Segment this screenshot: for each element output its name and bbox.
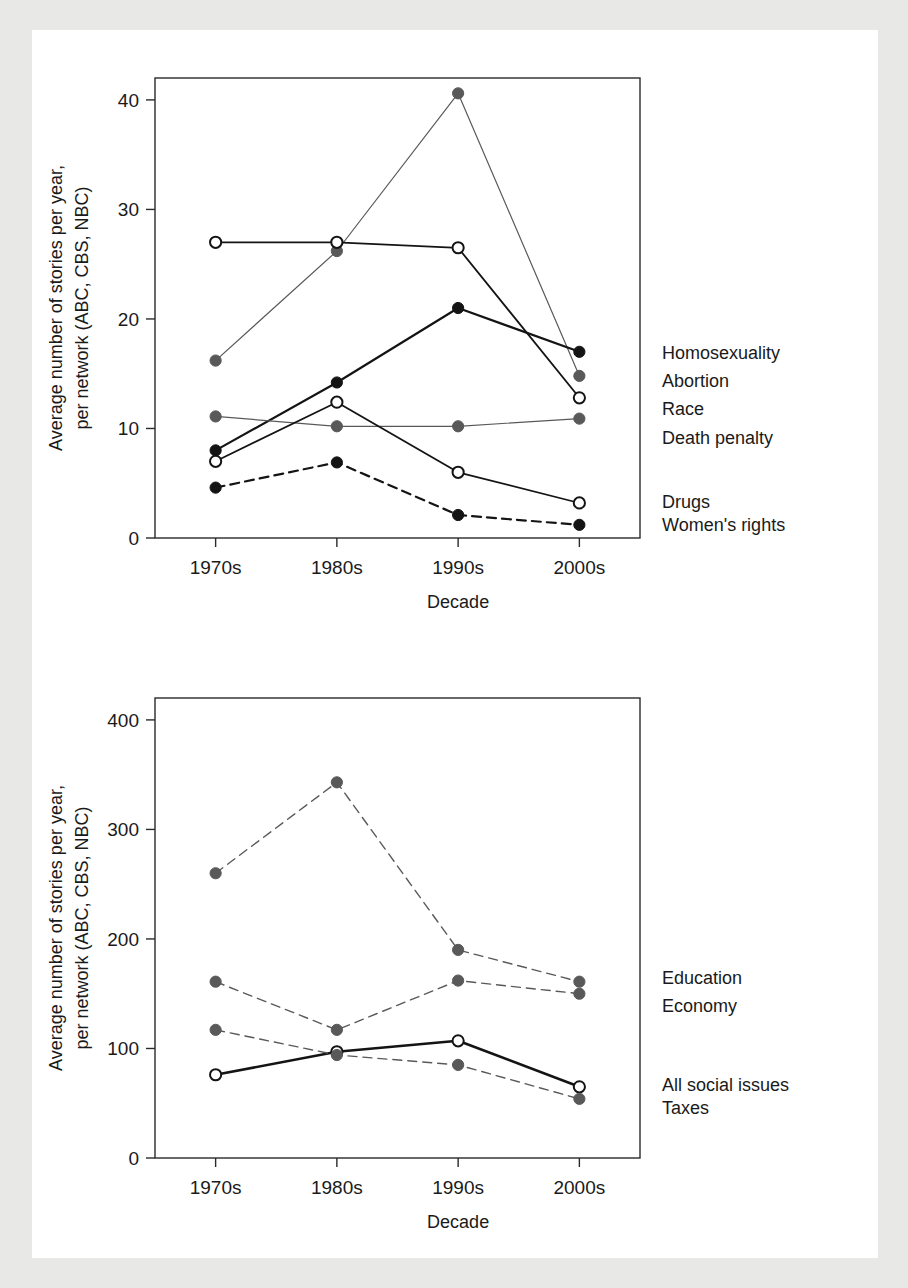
scan-edge-bottom: [0, 1258, 908, 1288]
data-point-marker: [331, 1049, 342, 1060]
data-point-marker: [210, 482, 221, 493]
x-tick-label: 1970s: [190, 557, 242, 578]
plot-frame: [155, 698, 640, 1158]
y-tick-label: 0: [128, 528, 139, 549]
y-tick-label: 30: [118, 199, 139, 220]
data-point-marker: [453, 302, 464, 313]
data-point-marker: [331, 1024, 342, 1035]
data-point-marker: [453, 88, 464, 99]
y-tick-label: 400: [107, 710, 139, 731]
series-label-homosexuality: Homosexuality: [662, 343, 780, 363]
data-point-marker: [210, 456, 221, 467]
series-label-abortion: Abortion: [662, 371, 729, 391]
data-point-marker: [574, 346, 585, 357]
scan-edge-top: [0, 0, 908, 30]
data-point-marker: [210, 445, 221, 456]
series-line-education: [216, 782, 580, 981]
scanned-page: 0102030401970s1980s1990s2000sDecadeAvera…: [0, 0, 908, 1288]
series-label-race: Race: [662, 399, 704, 419]
data-point-marker: [574, 519, 585, 530]
social-issues-chart-figure: 0102030401970s1980s1990s2000sDecadeAvera…: [0, 40, 908, 640]
data-point-marker: [331, 237, 342, 248]
series-label-women-s-rights: Women's rights: [662, 515, 785, 535]
data-point-marker: [574, 1093, 585, 1104]
x-axis-title: Decade: [427, 592, 489, 612]
y-axis-title-line2: per network (ABC, CBS, NBC): [72, 806, 92, 1049]
x-tick-label: 2000s: [553, 1177, 605, 1198]
data-point-marker: [210, 976, 221, 987]
data-point-marker: [210, 1024, 221, 1035]
all-issues-chart-svg: 01002003004001970s1980s1990s2000sDecadeA…: [0, 640, 908, 1260]
x-tick-label: 1990s: [432, 1177, 484, 1198]
series-line-race: [216, 242, 580, 397]
plot-frame: [155, 78, 640, 538]
y-tick-label: 10: [118, 418, 139, 439]
series-label-education: Education: [662, 968, 742, 988]
series-label-taxes: Taxes: [662, 1098, 709, 1118]
series-line-homosexuality: [216, 93, 580, 376]
series-line-death-penalty: [216, 416, 580, 426]
data-point-marker: [453, 242, 464, 253]
data-point-marker: [331, 777, 342, 788]
series-label-death-penalty: Death penalty: [662, 428, 773, 448]
x-tick-label: 1980s: [311, 557, 363, 578]
y-tick-label: 100: [107, 1038, 139, 1059]
data-point-marker: [574, 1081, 585, 1092]
data-point-marker: [574, 976, 585, 987]
all-issues-chart-figure: 01002003004001970s1980s1990s2000sDecadeA…: [0, 640, 908, 1260]
x-tick-label: 1990s: [432, 557, 484, 578]
y-tick-label: 40: [118, 90, 139, 111]
x-tick-label: 1970s: [190, 1177, 242, 1198]
series-label-drugs: Drugs: [662, 492, 710, 512]
data-point-marker: [331, 457, 342, 468]
data-point-marker: [210, 1069, 221, 1080]
data-point-marker: [574, 988, 585, 999]
data-point-marker: [210, 355, 221, 366]
y-tick-label: 200: [107, 929, 139, 950]
x-axis-title: Decade: [427, 1212, 489, 1232]
y-tick-label: 0: [128, 1148, 139, 1169]
data-point-marker: [453, 1035, 464, 1046]
data-point-marker: [574, 392, 585, 403]
data-point-marker: [453, 944, 464, 955]
social-issues-chart-svg: 0102030401970s1980s1990s2000sDecadeAvera…: [0, 40, 908, 640]
data-point-marker: [574, 497, 585, 508]
data-point-marker: [453, 509, 464, 520]
series-line-all-social-issues: [216, 1041, 580, 1087]
x-tick-label: 1980s: [311, 1177, 363, 1198]
data-point-marker: [453, 421, 464, 432]
x-tick-label: 2000s: [553, 557, 605, 578]
data-point-marker: [453, 467, 464, 478]
data-point-marker: [331, 397, 342, 408]
series-label-economy: Economy: [662, 996, 737, 1016]
series-line-economy: [216, 981, 580, 1030]
y-axis-title-line1: Average number of stories per year,: [46, 165, 66, 451]
y-axis-title-line2: per network (ABC, CBS, NBC): [72, 186, 92, 429]
data-point-marker: [574, 370, 585, 381]
y-tick-label: 20: [118, 309, 139, 330]
data-point-marker: [210, 411, 221, 422]
data-point-marker: [574, 413, 585, 424]
data-point-marker: [331, 377, 342, 388]
data-point-marker: [210, 237, 221, 248]
y-tick-label: 300: [107, 819, 139, 840]
series-line-women-s-rights: [216, 462, 580, 525]
data-point-marker: [453, 1059, 464, 1070]
series-label-all-social-issues: All social issues: [662, 1075, 789, 1095]
data-point-marker: [453, 975, 464, 986]
y-axis-title-line1: Average number of stories per year,: [46, 785, 66, 1071]
data-point-marker: [210, 868, 221, 879]
data-point-marker: [331, 421, 342, 432]
